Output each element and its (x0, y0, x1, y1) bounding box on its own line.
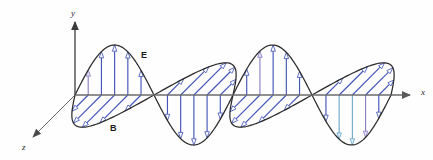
magnetic-field-arrow (241, 95, 273, 127)
electric-field-arrow (271, 45, 275, 95)
magnetic-field-arrow (259, 95, 286, 122)
electric-field-arrow (363, 95, 367, 137)
magnetic-field-arrow (181, 67, 209, 95)
magnetic-field-arrow (352, 63, 384, 95)
magnetic-field-arrow (366, 68, 393, 95)
electric-field-arrow (337, 95, 341, 139)
electric-field-arrow (192, 95, 196, 145)
magnetic-field-arrow (194, 63, 226, 95)
magnetic-field-arrow (100, 95, 128, 123)
electric-field-arrow (284, 52, 288, 95)
electric-field-arrow (350, 95, 354, 145)
z-axis (33, 95, 75, 137)
electric-field-arrow (126, 52, 130, 95)
electric-field-arrow (99, 52, 103, 95)
magnetic-field-arrow (339, 67, 367, 95)
y-axis-label: y (70, 8, 75, 18)
magnetic-field-arrow (207, 67, 235, 95)
x-axis-label: x (420, 87, 425, 97)
magnetic-field-label: B (110, 123, 117, 133)
magnetic-field-arrow (326, 78, 343, 95)
em-wave-figure: x y z E B (0, 0, 433, 160)
electric-field-arrow (205, 95, 209, 138)
electric-field-arrow (178, 95, 182, 139)
electric-field-arrow (258, 51, 262, 95)
z-axis-label: z (21, 142, 26, 152)
electric-field-label: E (141, 50, 147, 60)
electric-field-arrow (112, 45, 116, 95)
em-wave-diagram: x y z E B (0, 0, 433, 160)
